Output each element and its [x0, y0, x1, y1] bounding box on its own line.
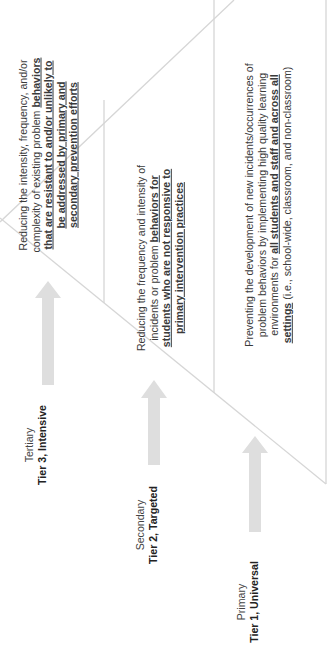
arrow-up-icon	[141, 380, 167, 465]
tier-2-label: Secondary Tier 2, Targeted	[134, 486, 159, 564]
tier-3-level: Tertiary	[23, 405, 36, 485]
tier-1-level: Primary	[235, 561, 248, 643]
tier-1-description: Preventing the development of new incide…	[243, 55, 293, 355]
tier-2-description: Reducing the frequency and intensity of …	[135, 161, 185, 356]
tier-1-description-tail: (i.e., school-wide, classroom, and non-c…	[281, 67, 293, 303]
tier-2-name: Tier 2, Targeted	[147, 486, 160, 564]
tier-3-name: Tier 3, Intensive	[36, 405, 49, 485]
tier-3-description: Reducing the intensity, frequency, and/o…	[17, 55, 80, 255]
tier-2-level: Secondary	[134, 486, 147, 564]
tier-1-label: Primary Tier 1, Universal	[235, 561, 260, 643]
arrow-up-icon	[35, 281, 61, 385]
arrow-up-icon	[242, 436, 268, 532]
tier-1-name: Tier 1, Universal	[248, 561, 261, 643]
tier-3-label: Tertiary Tier 3, Intensive	[23, 405, 48, 485]
